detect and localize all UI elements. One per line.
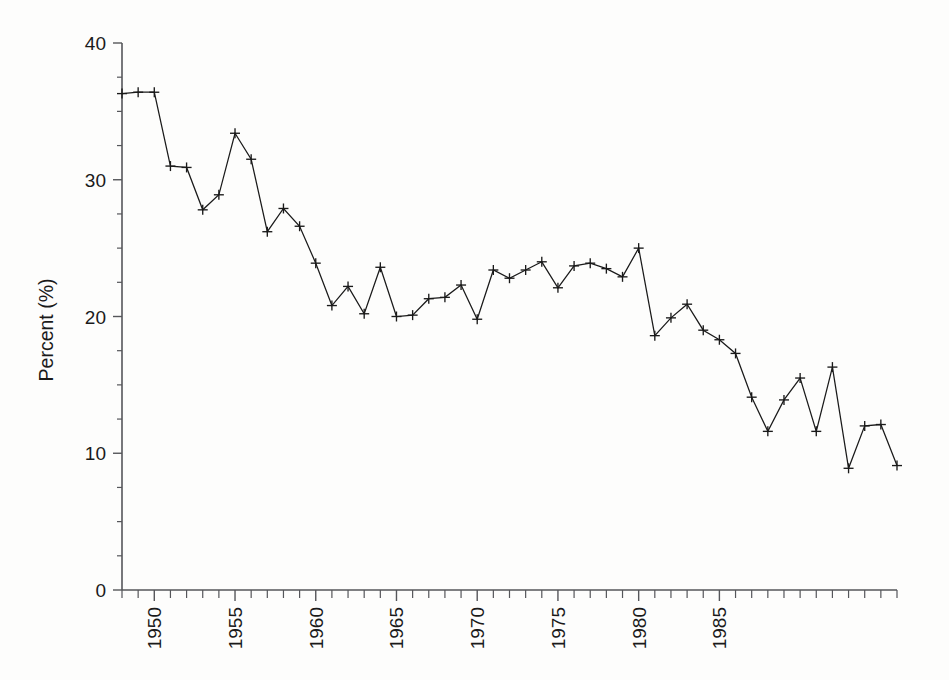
data-point-markers [117, 87, 902, 473]
data-point-marker [505, 273, 515, 283]
data-point-marker [553, 283, 563, 293]
data-point-marker [537, 257, 547, 267]
x-tick-labels: 19501955196019651970197519801985 [144, 607, 730, 649]
data-point-marker [795, 373, 805, 383]
x-tick-label: 1985 [709, 607, 730, 649]
y-tick-label: 20 [85, 307, 106, 328]
data-point-marker [876, 420, 886, 430]
chart-container: 010203040 195019551960196519701975198019… [0, 0, 949, 680]
y-axis-title: Percent (%) [35, 279, 57, 382]
x-tick-label: 1950 [144, 607, 165, 649]
data-point-marker [230, 128, 240, 138]
data-point-marker [440, 292, 450, 302]
data-point-marker [521, 265, 531, 275]
data-point-marker [472, 314, 482, 324]
y-tick-label: 40 [85, 33, 106, 54]
data-point-marker [246, 154, 256, 164]
data-point-marker [569, 261, 579, 271]
x-tick-label: 1955 [225, 607, 246, 649]
data-point-marker [117, 89, 127, 99]
x-tick-label: 1980 [629, 607, 650, 649]
y-tick-label: 30 [85, 170, 106, 191]
data-point-marker [391, 312, 401, 322]
data-point-marker [375, 262, 385, 272]
data-point-marker [634, 243, 644, 253]
data-point-marker [779, 395, 789, 405]
x-tick-label: 1960 [306, 607, 327, 649]
data-point-marker [585, 258, 595, 268]
data-point-marker [844, 463, 854, 473]
x-tick-label: 1965 [386, 607, 407, 649]
y-tick-label: 10 [85, 443, 106, 464]
data-point-marker [182, 162, 192, 172]
data-point-marker [456, 280, 466, 290]
data-point-marker [860, 421, 870, 431]
x-tick-label: 1975 [548, 607, 569, 649]
data-point-marker [811, 426, 821, 436]
data-point-marker [262, 227, 272, 237]
data-point-marker [698, 325, 708, 335]
line-chart-svg: 010203040 195019551960196519701975198019… [0, 0, 949, 680]
data-point-marker [149, 87, 159, 97]
data-point-marker [488, 265, 498, 275]
data-point-marker [747, 392, 757, 402]
chart-axes [113, 43, 897, 601]
y-tick-label: 0 [95, 580, 106, 601]
y-tick-labels: 010203040 [85, 33, 106, 601]
data-point-marker [359, 309, 369, 319]
data-point-marker [892, 461, 902, 471]
data-point-marker [827, 362, 837, 372]
data-point-marker [165, 161, 175, 171]
data-point-marker [601, 264, 611, 274]
data-point-marker [133, 87, 143, 97]
x-tick-label: 1970 [467, 607, 488, 649]
data-point-marker [311, 258, 321, 268]
data-point-marker [618, 272, 628, 282]
data-point-marker [763, 426, 773, 436]
